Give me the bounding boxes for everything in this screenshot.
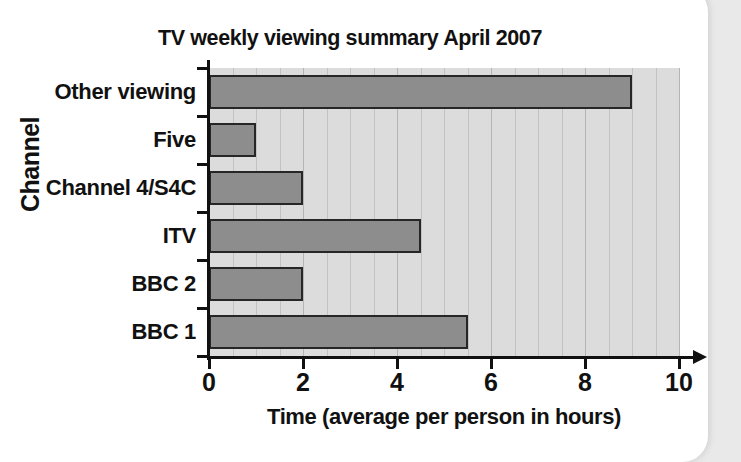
bar: [209, 171, 303, 205]
y-axis-label: Other viewing: [54, 81, 196, 103]
x-axis-title: Time (average per person in hours): [209, 404, 679, 430]
y-axis-line: [207, 60, 210, 360]
y-axis-tick: [197, 211, 208, 214]
plot-area: [209, 68, 679, 356]
x-axis-tick-label: 2: [296, 370, 310, 395]
x-axis-tick-label: 8: [578, 370, 592, 395]
bar: [209, 219, 421, 253]
x-axis-line: [207, 356, 697, 359]
x-axis-tick-label: 0: [202, 370, 216, 395]
y-axis-label: ITV: [163, 225, 196, 247]
y-axis-label: BBC 1: [131, 321, 196, 343]
x-axis-arrow-icon: [693, 350, 707, 364]
bar: [209, 315, 468, 349]
y-axis-tick: [197, 307, 208, 310]
bar-series: [209, 68, 679, 356]
x-axis-tick-label: 10: [665, 370, 693, 395]
y-axis-tick: [197, 115, 208, 118]
bar: [209, 75, 632, 109]
y-axis-label: Five: [153, 129, 196, 151]
x-axis-tick-label: 4: [390, 370, 404, 395]
y-axis-labels: Other viewingFiveChannel 4/S4CITVBBC 2BB…: [0, 0, 196, 448]
x-axis-tick-label: 6: [484, 370, 498, 395]
y-axis-tick: [197, 163, 208, 166]
y-axis-tick: [197, 259, 208, 262]
y-axis-label: BBC 2: [131, 273, 196, 295]
y-axis-tick: [197, 67, 208, 70]
y-axis-label: Channel 4/S4C: [46, 177, 196, 199]
bar: [209, 267, 303, 301]
bar: [209, 123, 256, 157]
y-axis-tick: [197, 355, 208, 358]
gridline: [679, 68, 680, 356]
